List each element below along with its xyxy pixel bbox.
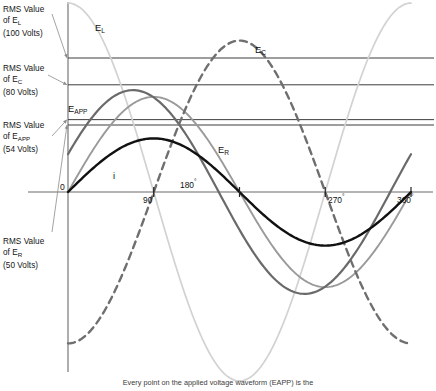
curve-label-i: i	[113, 170, 115, 181]
axis-tick-180: 180°	[180, 178, 197, 190]
curve-label-el: EL	[95, 22, 105, 34]
rms-eapp-line1: RMS Value	[3, 120, 44, 131]
rms-value-el: RMS Value of EL (100 Volts)	[3, 4, 44, 40]
rms-ec-line1: RMS Value	[3, 63, 44, 74]
rms-el-line1: RMS Value	[3, 4, 44, 15]
rms-value-er: RMS Value of ER (50 Volts)	[3, 236, 44, 272]
waveform-plot	[0, 0, 436, 391]
leader-line-3	[52, 125, 67, 232]
curve-label-eapp: EAPP	[68, 103, 87, 115]
rms-el-line3: (100 Volts)	[3, 28, 44, 39]
rms-value-eapp: RMS Value of EAPP (54 Volts)	[3, 120, 44, 156]
axis-tick-270: 270°	[328, 193, 345, 205]
rms-eapp-line2: of EAPP	[3, 131, 44, 144]
axis-tick-90: 90°	[143, 193, 155, 205]
rms-er-line3: (50 Volts)	[3, 260, 44, 271]
axis-origin-label: 0	[60, 182, 65, 192]
axis-tick-360: 360°	[397, 193, 414, 205]
leader-arrow-0	[64, 54, 67, 58]
rms-value-ec: RMS Value of EC (80 Volts)	[3, 63, 44, 99]
leader-line-0	[52, 14, 67, 58]
rms-eapp-line3: (54 Volts)	[3, 144, 44, 155]
curve-label-er: ER	[218, 144, 229, 156]
rms-el-line2: of EL	[3, 15, 44, 28]
figure-canvas: RMS Value of EL (100 Volts) RMS Value of…	[0, 0, 436, 391]
curve-label-ec: EC	[255, 44, 266, 56]
rms-ec-line2: of EC	[3, 74, 44, 87]
rms-er-line1: RMS Value	[3, 236, 44, 247]
rms-er-line2: of ER	[3, 247, 44, 260]
figure-caption: Every point on the applied voltage wavef…	[0, 378, 436, 387]
rms-ec-line3: (80 Volts)	[3, 87, 44, 98]
